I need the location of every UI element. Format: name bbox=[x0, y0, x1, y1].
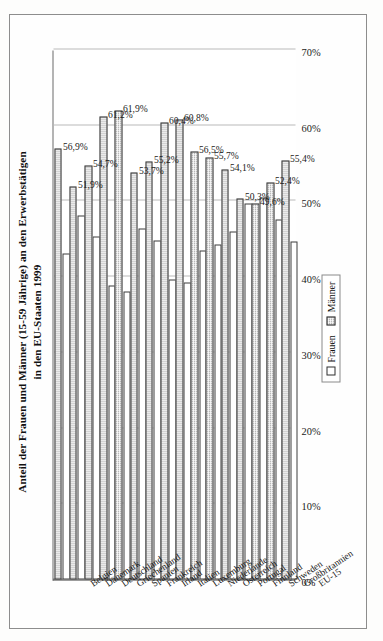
bar-group bbox=[281, 50, 296, 579]
legend-swatch-frauen-icon bbox=[326, 366, 335, 375]
chart-title-line-1: Anteil der Frauen und Männer (15-59 Jähr… bbox=[14, 15, 29, 628]
bar-group bbox=[69, 50, 84, 579]
axis-tick-label: 40% bbox=[301, 273, 320, 284]
bar-maenner bbox=[114, 110, 122, 579]
bar-maenner bbox=[266, 182, 274, 579]
bar-group bbox=[84, 50, 99, 579]
axis-tick-label: 30% bbox=[301, 349, 320, 360]
bar-group bbox=[205, 50, 220, 579]
bar-maenner bbox=[236, 198, 244, 579]
bar-maenner bbox=[205, 157, 213, 579]
bar-group bbox=[54, 50, 69, 579]
bar-group bbox=[145, 50, 160, 579]
axis-tick-label: 0% bbox=[301, 576, 315, 587]
bar-group bbox=[99, 50, 114, 579]
plot-area bbox=[52, 50, 295, 580]
legend-label-frauen: Frauen bbox=[325, 335, 336, 362]
bar-value-label: 53,7% bbox=[138, 165, 163, 176]
bar-maenner bbox=[84, 165, 92, 579]
rotated-figure-content: Anteil der Frauen und Männer (15-59 Jähr… bbox=[10, 15, 366, 628]
bar-group bbox=[266, 50, 281, 579]
bar-maenner bbox=[190, 151, 198, 579]
axis-tick-label: 20% bbox=[301, 425, 320, 436]
bar-maenner bbox=[69, 186, 77, 579]
gridline bbox=[53, 48, 295, 49]
bar-group bbox=[130, 50, 145, 579]
bar-group bbox=[236, 50, 251, 579]
bar-maenner bbox=[251, 203, 259, 579]
bar-value-label: 51,9% bbox=[77, 179, 102, 190]
bar-maenner bbox=[54, 148, 62, 579]
figure-frame: Anteil der Frauen und Männer (15-59 Jähr… bbox=[9, 14, 367, 629]
legend-swatch-maenner-icon bbox=[326, 316, 335, 325]
bar-maenner bbox=[160, 122, 168, 579]
bar-maenner bbox=[281, 160, 289, 579]
bar-value-label: 49,6% bbox=[260, 196, 285, 207]
bar-maenner bbox=[130, 172, 138, 579]
axis-tick-label: 70% bbox=[301, 46, 320, 57]
bar-maenner bbox=[221, 169, 229, 579]
bar-group bbox=[175, 50, 190, 579]
bar-value-label: 55,4% bbox=[290, 152, 315, 163]
chart-legend: Frauen Männer bbox=[321, 274, 340, 382]
bar-maenner bbox=[145, 161, 153, 579]
legend-item-maenner: Männer bbox=[325, 281, 336, 324]
bar-value-label: 52,4% bbox=[275, 175, 300, 186]
figure-page: Anteil der Frauen und Männer (15-59 Jähr… bbox=[0, 0, 383, 641]
axis-tick-label: 50% bbox=[301, 197, 320, 208]
bar-group bbox=[160, 50, 175, 579]
bar-value-label: 56,9% bbox=[62, 141, 87, 152]
bar-group bbox=[221, 50, 236, 579]
bar-value-label: 60,8% bbox=[184, 111, 209, 122]
bar-value-label: 55,7% bbox=[214, 150, 239, 161]
bar-group bbox=[114, 50, 129, 579]
chart-title-line-2: in den EU-Staaten 1999 bbox=[29, 15, 44, 628]
axis-tick-label: 10% bbox=[301, 500, 320, 511]
bar-value-label: 55,2% bbox=[153, 154, 178, 165]
legend-item-frauen: Frauen bbox=[325, 335, 336, 375]
legend-label-maenner: Männer bbox=[325, 281, 336, 311]
bar-value-label: 54,1% bbox=[229, 162, 254, 173]
bar-group bbox=[251, 50, 266, 579]
axis-tick-label: 60% bbox=[301, 122, 320, 133]
bar-group bbox=[190, 50, 205, 579]
bar-frauen bbox=[290, 241, 298, 579]
chart-title: Anteil der Frauen und Männer (15-59 Jähr… bbox=[14, 15, 44, 628]
bar-value-label: 54,7% bbox=[92, 157, 117, 168]
bar-maenner bbox=[175, 119, 183, 579]
bar-value-label: 61,9% bbox=[123, 103, 148, 114]
